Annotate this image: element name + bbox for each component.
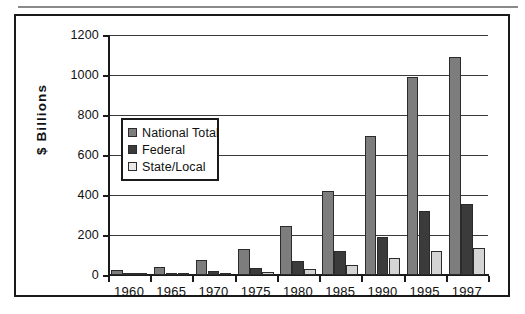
bar-national: [154, 267, 166, 275]
bar-statelocal: [135, 273, 147, 275]
y-axis-tick-label: 1000: [70, 68, 99, 82]
x-axis-tick-label: 1970: [198, 284, 228, 299]
y-axis-tick-label: 1200: [70, 28, 99, 42]
y-axis-tick-label: 0: [92, 268, 99, 282]
bar-national: [280, 226, 292, 275]
bar-national: [365, 136, 377, 275]
chart-legend: National Total Federal State/Local: [121, 118, 219, 181]
x-axis-tick-label: 1997: [452, 284, 482, 299]
x-axis-tick: [404, 276, 406, 282]
bar-statelocal: [389, 258, 401, 275]
legend-swatch-icon-federal: [128, 145, 137, 154]
bar-federal: [250, 268, 262, 275]
bar-group: [319, 35, 361, 275]
x-axis-tick: [277, 276, 279, 282]
plot-wrapper: $ Billions 020040060080010001200 1960196…: [0, 0, 525, 314]
bar-federal: [123, 273, 135, 275]
bar-national: [196, 260, 208, 275]
x-axis-tick-label: 1990: [367, 284, 397, 299]
x-axis-tick-label: 1960: [114, 284, 144, 299]
x-axis-tick: [235, 276, 237, 282]
bar-national: [111, 270, 123, 275]
legend-label-state-local: State/Local: [142, 160, 206, 174]
bar-federal: [419, 211, 431, 275]
bar-group: [404, 35, 446, 275]
y-axis-tick-label: 600: [78, 148, 99, 162]
bar-federal: [292, 261, 304, 275]
bar-national: [322, 191, 334, 275]
bar-group: [277, 35, 319, 275]
bar-federal: [208, 271, 220, 275]
legend-label-federal: Federal: [142, 143, 185, 157]
x-axis-tick-label: 1985: [325, 284, 355, 299]
legend-label-national-total: National Total: [142, 126, 219, 140]
legend-swatch-icon-national-total: [128, 128, 137, 137]
y-axis-title: $ Billions: [34, 84, 49, 155]
legend-item-national-total: National Total: [128, 124, 212, 141]
bar-federal: [461, 204, 473, 275]
bar-federal: [166, 273, 178, 275]
bar-national: [238, 249, 250, 275]
y-axis-tick-label: 400: [78, 188, 99, 202]
y-axis-tick-label: 800: [78, 108, 99, 122]
bar-national: [407, 77, 419, 275]
bar-national: [449, 57, 461, 275]
x-axis-tick-label: 1975: [241, 284, 271, 299]
bar-statelocal: [346, 265, 358, 275]
bar-statelocal: [220, 273, 232, 275]
legend-swatch-icon-state-local: [128, 162, 137, 171]
x-axis-tick: [108, 276, 110, 282]
x-axis-tick-label: 1980: [283, 284, 313, 299]
x-axis-tick: [488, 276, 490, 282]
x-axis-tick: [192, 276, 194, 282]
chart-page: $ Billions 020040060080010001200 1960196…: [0, 0, 525, 314]
bar-group: [235, 35, 277, 275]
x-axis-tick-label: 1995: [410, 284, 440, 299]
y-axis-tick-label: 200: [78, 228, 99, 242]
bar-statelocal: [304, 269, 316, 275]
bar-statelocal: [178, 273, 190, 275]
legend-item-federal: Federal: [128, 141, 212, 158]
x-axis-tick-label: 1965: [156, 284, 186, 299]
x-axis-tick: [361, 276, 363, 282]
bar-statelocal: [262, 272, 274, 275]
bar-statelocal: [473, 248, 485, 275]
bar-federal: [377, 237, 389, 275]
x-axis-tick: [319, 276, 321, 282]
bar-group: [361, 35, 403, 275]
legend-item-state-local: State/Local: [128, 158, 212, 175]
x-axis-tick: [150, 276, 152, 282]
bar-federal: [334, 251, 346, 275]
bar-group: [446, 35, 488, 275]
bar-statelocal: [431, 251, 443, 275]
x-axis-tick: [446, 276, 448, 282]
